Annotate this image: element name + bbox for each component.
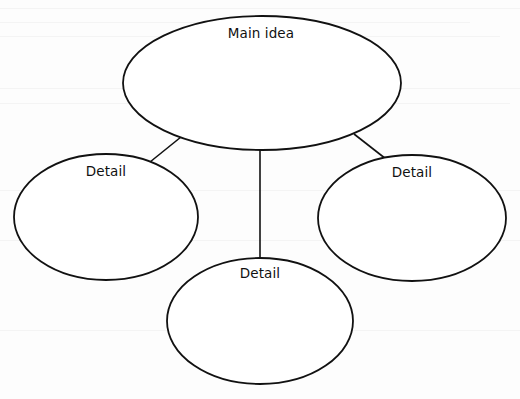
connector-main-to-detail-left	[150, 137, 181, 162]
diagram-canvas	[0, 0, 520, 399]
idea-web-diagram: Main idea Detail Detail Detail	[0, 0, 520, 399]
detail-right-label: Detail	[392, 164, 432, 180]
detail-bottom-label: Detail	[240, 265, 280, 281]
connector-main-to-detail-right	[354, 134, 386, 159]
main-idea-label: Main idea	[228, 25, 294, 41]
detail-left-label: Detail	[86, 163, 126, 179]
